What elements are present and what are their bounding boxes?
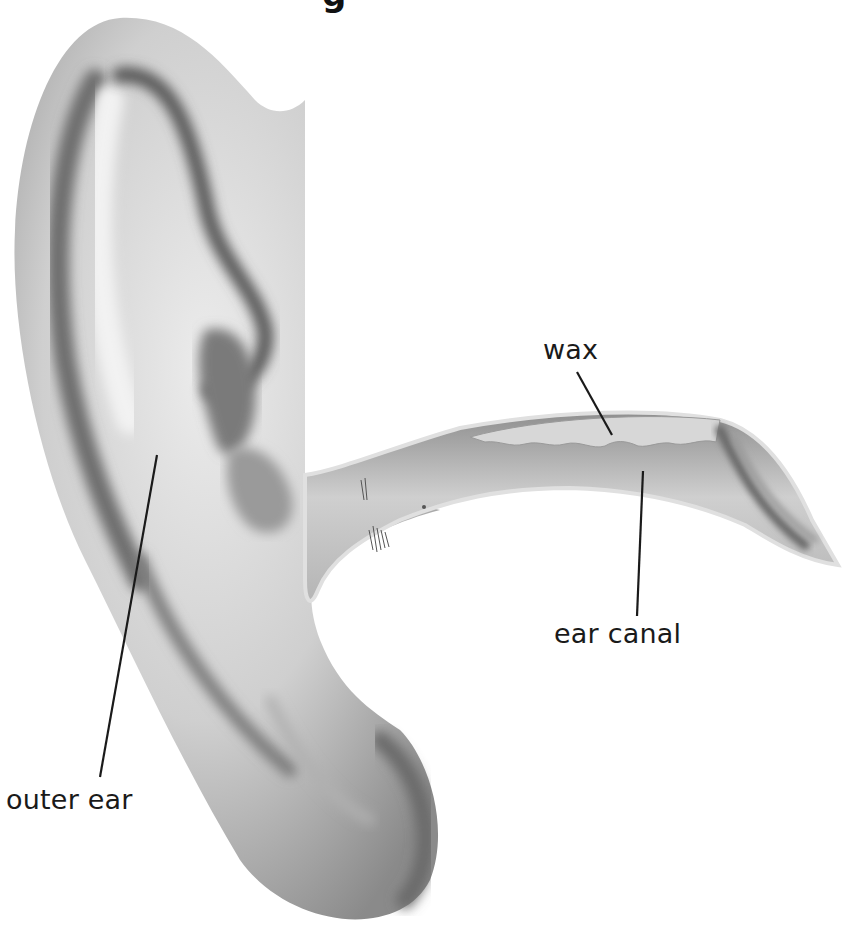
ear-canal-shape: [305, 412, 838, 600]
label-outer-ear: outer ear: [6, 784, 133, 815]
label-wax: wax: [543, 334, 598, 365]
label-ear-canal: ear canal: [554, 618, 681, 649]
